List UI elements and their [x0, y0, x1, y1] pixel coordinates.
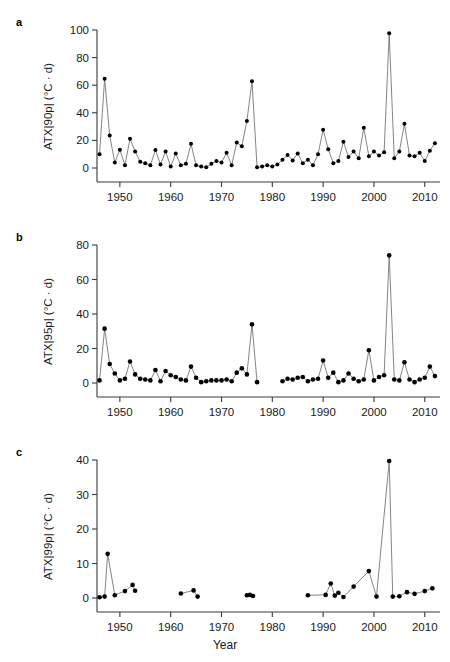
x-tick-label: 1990 — [310, 406, 336, 418]
data-point — [191, 588, 196, 593]
data-point — [311, 163, 315, 167]
x-axis-label: Year — [0, 638, 450, 652]
data-point — [148, 378, 153, 383]
data-point — [351, 584, 356, 589]
data-point — [341, 140, 345, 144]
data-point — [179, 591, 184, 596]
panel-a: a ATX|90p| (°C · d) 02040608010019501960… — [0, 0, 450, 215]
data-point — [382, 150, 386, 154]
data-point — [433, 374, 438, 379]
data-point — [405, 590, 410, 595]
data-point — [128, 137, 132, 141]
x-tick-label: 2000 — [361, 621, 387, 633]
data-point — [397, 149, 401, 153]
data-point — [357, 156, 361, 160]
data-point — [245, 372, 250, 377]
data-point — [97, 378, 102, 383]
data-point — [306, 593, 311, 598]
data-point — [321, 358, 326, 363]
data-point — [195, 594, 200, 599]
data-point — [118, 378, 123, 383]
data-point — [174, 152, 178, 156]
figure-atx-percentile-timeseries: a ATX|90p| (°C · d) 02040608010019501960… — [0, 0, 450, 662]
y-tick-label: 40 — [76, 308, 89, 320]
panel-c-plot: 0102030401950196019701980199020002010 — [0, 430, 450, 662]
data-point — [417, 377, 422, 382]
data-point — [387, 31, 391, 35]
data-point — [336, 591, 341, 596]
data-point — [179, 163, 183, 167]
data-point — [112, 593, 117, 598]
data-point — [138, 376, 143, 381]
data-point — [328, 581, 333, 586]
data-point — [306, 379, 311, 384]
data-point — [326, 376, 331, 381]
data-point — [290, 377, 295, 382]
data-point — [367, 154, 371, 158]
data-point — [392, 377, 397, 382]
data-point — [412, 380, 417, 385]
x-tick-label: 2000 — [361, 406, 387, 418]
data-point — [418, 151, 422, 155]
y-tick-label: 20 — [76, 343, 89, 355]
x-tick-label: 1980 — [260, 191, 286, 203]
data-point — [265, 163, 269, 167]
data-point — [138, 160, 142, 164]
y-tick-label: 100 — [70, 24, 89, 36]
y-tick-label: 40 — [76, 107, 89, 119]
data-point — [240, 144, 244, 148]
data-point — [326, 147, 330, 151]
x-tick-label: 1990 — [310, 191, 336, 203]
data-point — [285, 376, 290, 381]
data-point — [280, 158, 284, 162]
data-point — [189, 142, 193, 146]
x-tick-label: 1980 — [260, 406, 286, 418]
data-point — [130, 583, 135, 588]
data-point — [102, 326, 107, 331]
data-point — [275, 163, 279, 167]
data-point — [168, 373, 173, 378]
data-point — [422, 589, 427, 594]
data-point — [194, 163, 198, 167]
data-point — [123, 376, 128, 381]
data-point — [382, 373, 387, 378]
data-point — [143, 161, 147, 165]
data-point — [352, 149, 356, 153]
data-point — [133, 588, 138, 593]
data-point — [220, 160, 224, 164]
data-point — [234, 370, 239, 375]
data-point — [229, 379, 234, 384]
data-point — [169, 165, 173, 169]
panel-b-plot: 0204060801950196019701980199020002010 — [0, 215, 450, 430]
data-point — [377, 154, 381, 158]
x-tick-label: 1960 — [158, 621, 184, 633]
data-point — [356, 379, 361, 384]
x-tick-label: 1990 — [310, 621, 336, 633]
data-point — [392, 156, 396, 160]
data-point — [295, 376, 300, 381]
y-tick-label: 0 — [83, 592, 89, 604]
data-point — [361, 377, 366, 382]
data-point — [286, 153, 290, 157]
data-point — [194, 376, 199, 381]
data-point — [323, 593, 328, 598]
data-point — [250, 79, 254, 83]
data-point — [184, 162, 188, 166]
data-point — [351, 376, 356, 381]
data-point — [367, 569, 372, 574]
data-point — [199, 380, 204, 385]
data-point — [306, 158, 310, 162]
y-tick-label: 20 — [76, 134, 89, 146]
data-point — [98, 152, 102, 156]
data-point — [209, 378, 214, 383]
data-point — [107, 362, 112, 367]
data-point — [428, 149, 432, 153]
data-point — [397, 378, 402, 383]
data-point — [199, 165, 203, 169]
data-point — [204, 165, 208, 169]
data-point — [189, 364, 194, 369]
data-point — [225, 151, 229, 155]
data-point — [113, 160, 117, 164]
x-tick-label: 2010 — [412, 406, 438, 418]
data-point — [408, 154, 412, 158]
